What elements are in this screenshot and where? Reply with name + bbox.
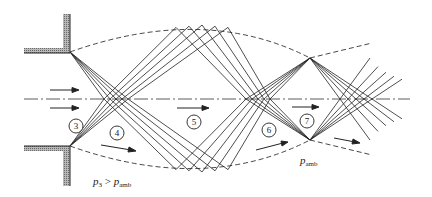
region-markers: 3 4 5 6 7 (69, 114, 314, 140)
wave-line (310, 58, 386, 126)
region-5-label: 5 (192, 117, 197, 127)
pressure-condition-label: p3 > pamb (92, 175, 132, 189)
region-3-label: 3 (74, 121, 79, 131)
flow-arrow-icon (101, 145, 136, 152)
flow-arrow-icon (50, 106, 79, 111)
flow-arrow-icon (177, 106, 209, 111)
region-3-marker: 3 (69, 119, 83, 133)
nozzle-upper-wall (24, 14, 70, 53)
flow-arrow-icon (334, 138, 360, 144)
region-4-label: 4 (115, 128, 120, 138)
wave-line (310, 58, 378, 131)
wave-line (310, 72, 386, 140)
region-4-marker: 4 (110, 126, 124, 140)
flow-arrow-icon (50, 88, 79, 93)
region-7-marker: 7 (300, 114, 314, 128)
lower-boundary-cell-2 (310, 140, 372, 155)
flow-arrow-icon (256, 141, 288, 150)
jet-diagram: 3 4 5 6 7 p3 > pamb pamb (0, 0, 432, 197)
wave-line (310, 67, 378, 140)
lower-boundary-cell-1 (70, 140, 310, 169)
upper-boundary-cell-1 (70, 29, 310, 58)
nozzle-lower-wall (24, 146, 70, 186)
ambient-pressure-label: pamb (299, 154, 318, 168)
region-7-label: 7 (305, 116, 310, 126)
flow-arrow-icon (292, 105, 319, 110)
region-5-marker: 5 (187, 115, 201, 129)
region-6-label: 6 (267, 125, 272, 135)
upper-boundary-cell-2 (310, 43, 372, 58)
region-6-marker: 6 (262, 123, 276, 137)
